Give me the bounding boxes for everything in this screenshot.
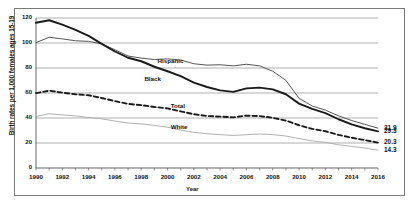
end-value-white: 14.3 [384, 146, 397, 153]
x-axis-tick-label: 2016 [362, 173, 394, 180]
y-axis-tick-label: 120 [16, 14, 32, 20]
y-axis-tick-label: 40 [16, 114, 32, 120]
series-label-total: Total [171, 102, 185, 109]
series-line-total [36, 91, 378, 143]
y-axis-tick-label: 80 [16, 64, 32, 70]
chart-figure: Birth rates per 1,000 females ages 15-19… [0, 0, 419, 211]
series-label-hispanic: Hispanic [158, 57, 184, 64]
gridlines [36, 18, 378, 143]
y-axis-tick-label: 20 [16, 139, 32, 145]
y-axis-tick-label: 100 [16, 39, 32, 45]
series-line-black [36, 20, 378, 131]
y-axis-title: Birth rates per 1,000 females ages 15-19 [8, 1, 15, 151]
y-axis-tick-label: 0 [16, 164, 32, 170]
end-value-total: 20.3 [384, 138, 397, 145]
end-value-black: 29.3 [384, 127, 397, 134]
series-label-white: White [171, 123, 188, 130]
series-label-black: Black [144, 75, 161, 82]
y-axis-tick-label: 60 [16, 89, 32, 95]
x-axis-title: Year [186, 186, 199, 192]
data-series-group [36, 20, 378, 150]
